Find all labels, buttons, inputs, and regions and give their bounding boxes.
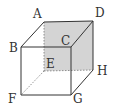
vertex-label-e: E [46,57,55,71]
edge-ab [21,22,44,47]
vertex-label-h: H [97,64,107,78]
vertex-label-g: G [73,92,83,105]
edge-ef [21,71,44,95]
vertex-label-f: F [8,92,16,105]
cube-diagram: A D B C E H F G [0,0,113,105]
vertex-label-a: A [32,7,42,21]
vertex-label-d: D [95,6,105,20]
vertex-label-b: B [9,41,18,55]
vertex-label-c: C [61,34,70,48]
